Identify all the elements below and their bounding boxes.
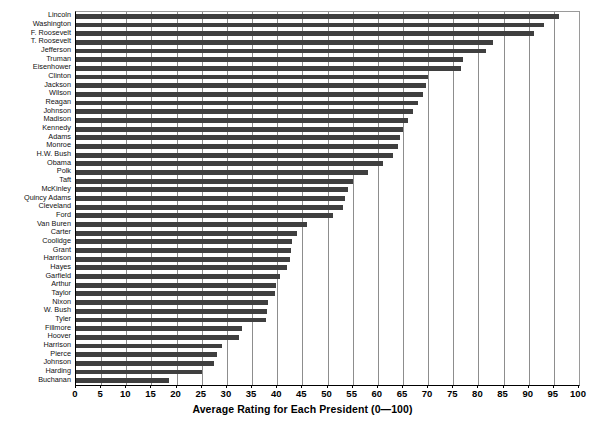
bar	[76, 352, 217, 357]
x-tick-label: 15	[145, 388, 156, 399]
x-tick-label: 40	[271, 388, 282, 399]
bar	[76, 318, 266, 323]
bar	[76, 75, 428, 80]
x-tick-label: 80	[472, 388, 483, 399]
bar	[76, 370, 202, 375]
bar	[76, 231, 297, 236]
y-axis-label: Hayes	[50, 263, 71, 271]
x-tick-label: 10	[120, 388, 131, 399]
x-tick-label: 35	[246, 388, 257, 399]
bar	[76, 179, 353, 184]
bar	[76, 135, 400, 140]
x-tick-label: 75	[447, 388, 458, 399]
bar	[76, 109, 413, 114]
bar	[76, 291, 275, 296]
bar	[76, 92, 423, 97]
x-tick-label: 65	[397, 388, 408, 399]
bar	[76, 213, 333, 218]
bar	[76, 153, 393, 158]
bar	[76, 57, 463, 62]
bar	[76, 101, 418, 106]
y-axis-label: Ford	[56, 211, 71, 219]
bar	[76, 187, 348, 192]
y-axis-label: Reagan	[45, 98, 71, 106]
x-tick-label: 70	[422, 388, 433, 399]
top-clipped-text-artifact	[0, 0, 605, 9]
x-tick-label: 0	[72, 388, 77, 399]
x-tick-label: 5	[97, 388, 102, 399]
y-axis-label: Kennedy	[42, 124, 71, 132]
y-axis-label: Buchanan	[38, 376, 71, 384]
y-axis-label: Harding	[45, 367, 71, 375]
x-tick-label: 45	[296, 388, 307, 399]
bar	[76, 326, 242, 331]
bar	[76, 196, 345, 201]
bar	[76, 361, 214, 366]
y-axis-label: Taylor	[52, 289, 71, 297]
x-axis-title: Average Rating for Each President (0—100…	[0, 403, 605, 415]
x-tick-label: 100	[570, 388, 586, 399]
bar	[76, 283, 276, 288]
x-tick-label: 85	[497, 388, 508, 399]
bar-series	[76, 12, 579, 385]
y-axis-label: Harrison	[43, 341, 71, 349]
bar	[76, 378, 169, 383]
bar	[76, 222, 307, 227]
bar	[76, 14, 559, 19]
bar	[76, 49, 486, 54]
bar	[76, 23, 544, 28]
x-tick-label: 60	[372, 388, 383, 399]
bar	[76, 309, 267, 314]
y-axis-label: Jefferson	[41, 46, 71, 54]
bar	[76, 274, 280, 279]
x-tick-label: 30	[221, 388, 232, 399]
y-axis-label: Clinton	[48, 72, 71, 80]
x-tick-label: 25	[195, 388, 206, 399]
bar	[76, 144, 398, 149]
bar	[76, 170, 368, 175]
y-axis-label: Carter	[51, 228, 71, 236]
gridline-100	[579, 12, 580, 385]
bar	[76, 239, 292, 244]
bottom-edge-artifact	[0, 419, 605, 429]
bar	[76, 265, 287, 270]
y-axis-category-labels: LincolnWashingtonF. RooseveltT. Roosevel…	[0, 11, 73, 384]
x-axis-ticks: 0510152025303540455055606570758085909510…	[75, 385, 578, 399]
bar	[76, 205, 343, 210]
bar	[76, 31, 534, 36]
bar	[76, 344, 222, 349]
x-tick-label: 50	[321, 388, 332, 399]
y-axis-label: H.W. Bush	[37, 150, 71, 158]
bar	[76, 257, 290, 262]
x-tick-label: 90	[522, 388, 533, 399]
presidential-rating-bar-chart: LincolnWashingtonF. RooseveltT. Roosevel…	[0, 0, 605, 429]
y-axis-label: McKinley	[41, 185, 71, 193]
y-axis-label: Tyler	[55, 315, 71, 323]
bar	[76, 300, 268, 305]
bar	[76, 335, 239, 340]
y-axis-label: Washington	[33, 20, 71, 28]
bar	[76, 40, 493, 45]
bar	[76, 161, 383, 166]
bar	[76, 127, 403, 132]
y-axis-label: Coolidge	[42, 237, 71, 245]
y-axis-label: Cleveland	[39, 202, 71, 210]
x-tick-label: 55	[346, 388, 357, 399]
y-axis-label: Taft	[59, 176, 71, 184]
bar	[76, 83, 426, 88]
bar	[76, 248, 291, 253]
x-tick-label: 95	[548, 388, 559, 399]
bar	[76, 66, 461, 71]
bar	[76, 118, 408, 123]
x-tick-label: 20	[170, 388, 181, 399]
plot-area	[75, 11, 580, 386]
